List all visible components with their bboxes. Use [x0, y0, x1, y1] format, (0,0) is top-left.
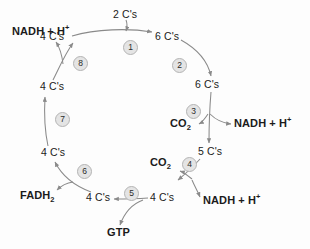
label-nadh-right: NADH + H+	[234, 118, 292, 129]
arrow-step-3	[209, 92, 211, 143]
fadh2-count: 2	[50, 195, 54, 204]
nadh-right-charge: +	[287, 115, 291, 124]
label-malate-4c: 4 C's	[40, 81, 64, 92]
step-badge-2: 2	[172, 58, 187, 73]
label-co2-upper: CO2	[170, 118, 191, 129]
arrow-nadh-top-left	[56, 42, 63, 64]
label-succinate-4c: 4 C's	[86, 192, 110, 203]
nadh-bottom-right-text: NADH + H	[203, 194, 256, 206]
label-co2-lower: CO2	[150, 157, 171, 168]
arrow-step-1	[72, 30, 152, 36]
label-fumarate-4c: 4 C's	[41, 147, 65, 158]
krebs-cycle-diagram: 2 C's 4 C's 6 C's 6 C's 5 C's 4 C's 4 C'…	[0, 0, 310, 249]
arrow-nadh-bottom-right	[192, 180, 200, 197]
step-badge-7: 7	[55, 112, 70, 127]
arrow-co2-lower	[180, 171, 192, 179]
arrow-fadh2	[57, 182, 73, 190]
nadh-right-text: NADH + H	[234, 117, 287, 129]
nadh-bottom-right-charge: +	[256, 192, 260, 201]
co2-lower-text: CO	[150, 156, 167, 168]
arrow-step-7	[45, 97, 48, 146]
fadh2-text: FADH	[20, 189, 50, 201]
label-acetyl-2c: 2 C's	[113, 9, 137, 20]
arrow-step-2	[181, 40, 211, 76]
arrow-gtp	[120, 200, 143, 225]
step-badge-6: 6	[77, 164, 92, 179]
step-badge-3: 3	[186, 104, 201, 119]
label-alpha-ketoglutarate-5c: 5 C's	[198, 146, 222, 157]
step-badge-4: 4	[182, 157, 197, 172]
label-nadh-top-left: NADH + H+	[12, 26, 70, 37]
label-nadh-bottom-right: NADH + H+	[203, 195, 261, 206]
co2-lower-count: 2	[167, 162, 171, 171]
co2-upper-text: CO	[170, 117, 187, 129]
arrow-nadh-right	[210, 114, 231, 124]
label-gtp: GTP	[107, 227, 130, 238]
step-badge-1: 1	[123, 40, 138, 55]
label-fadh2: FADH2	[20, 190, 55, 201]
nadh-top-left-text: NADH + H	[12, 25, 65, 37]
label-isocitrate-6c: 6 C's	[195, 79, 219, 90]
label-succinyl-coa-4c: 4 C's	[150, 192, 174, 203]
step-badge-8: 8	[73, 56, 88, 71]
arrow-step-8	[53, 43, 73, 80]
co2-upper-count: 2	[187, 123, 191, 132]
nadh-top-left-charge: +	[65, 23, 69, 32]
step-badge-5: 5	[124, 186, 139, 201]
label-citrate-6c: 6 C's	[155, 31, 179, 42]
arrow-acetyl-input	[126, 20, 127, 31]
arrow-co2-upper	[199, 114, 208, 124]
